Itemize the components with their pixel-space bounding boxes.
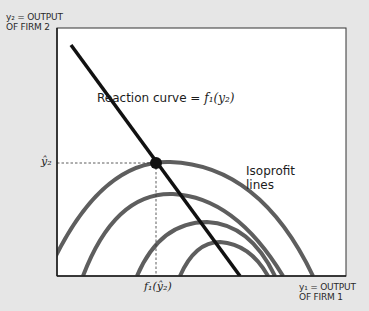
y-axis-label: y₂ = OUTPUT OF FIRM 2: [6, 12, 63, 32]
y-axis-label-line2: OF FIRM 2: [6, 22, 63, 32]
reaction-curve-diagram: [0, 0, 369, 311]
x-tick-label: f₁(ŷ₂): [144, 280, 172, 294]
reaction-curve-function: f₁(y₂): [204, 91, 234, 105]
isoprofit-label-line2: lines: [246, 178, 295, 192]
isoprofit-label-line1: Isoprofit: [246, 164, 295, 178]
y-tick-label: ŷ₂: [41, 155, 52, 169]
y-axis-label-line1: y₂ = OUTPUT: [6, 12, 63, 22]
reaction-curve-label: Reaction curve = f₁(y₂): [97, 91, 234, 105]
tangency-point: [150, 157, 162, 169]
x-axis-label-line2: OF FIRM 1: [299, 292, 356, 302]
isoprofit-label: Isoprofit lines: [246, 164, 295, 192]
x-axis-label: y₁ = OUTPUT OF FIRM 1: [299, 282, 356, 302]
reaction-curve-text: Reaction curve =: [97, 91, 204, 105]
x-axis-label-line1: y₁ = OUTPUT: [299, 282, 356, 292]
